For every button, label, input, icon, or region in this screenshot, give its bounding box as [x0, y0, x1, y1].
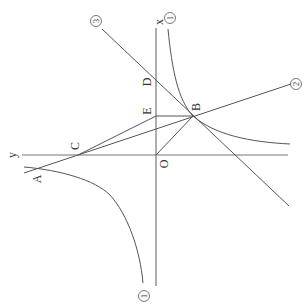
label-line-3: 3 [91, 16, 102, 27]
label-point-a: A [30, 174, 44, 183]
svg-text:1: 1 [165, 16, 175, 21]
label-y-axis: y [5, 152, 19, 158]
label-point-e: E [140, 107, 154, 114]
label-point-c: C [68, 142, 82, 150]
label-point-d: D [140, 77, 154, 86]
hyperbola-branch-lower [24, 167, 143, 283]
line-2 [24, 84, 291, 173]
segment-OB [156, 116, 193, 155]
label-origin: O [157, 159, 171, 168]
segment-CE [78, 116, 156, 155]
label-curve-1-bottom: 1 [139, 291, 150, 302]
label-point-b: B [189, 103, 203, 111]
label-curve-1-top: 1 [165, 13, 176, 24]
svg-text:2: 2 [291, 82, 301, 87]
svg-text:3: 3 [91, 18, 101, 23]
hyperbola-branch-upper [168, 29, 290, 144]
geometry-diagram: x y O A B C D E 1 1 2 3 [0, 0, 304, 307]
label-line-2: 2 [291, 79, 302, 90]
svg-text:1: 1 [139, 294, 149, 299]
label-x-axis: x [152, 19, 166, 25]
